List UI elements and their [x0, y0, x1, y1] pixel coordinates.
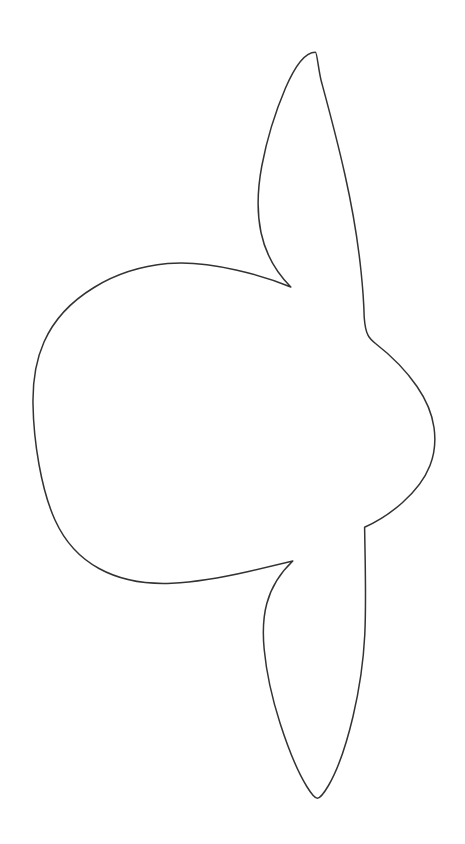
sunfish-outline-svg — [0, 0, 465, 844]
drawing-canvas — [0, 0, 465, 844]
